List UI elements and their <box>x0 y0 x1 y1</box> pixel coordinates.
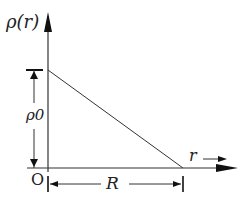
y-axis-arrow-icon <box>44 12 52 32</box>
y-axis-label: ρ(r) <box>6 13 39 31</box>
r-direction-arrow <box>203 156 227 162</box>
density-line <box>48 70 183 168</box>
x-axis-arrow-icon <box>216 164 238 172</box>
y-axis <box>44 12 52 172</box>
width-label: R <box>106 175 119 192</box>
density-diagram: ρ(r) r O ρ0 R <box>0 0 248 204</box>
height-label: ρ0 <box>26 108 44 123</box>
origin-label: O <box>31 172 44 188</box>
x-axis-label: r <box>189 148 197 164</box>
x-axis <box>27 164 238 172</box>
